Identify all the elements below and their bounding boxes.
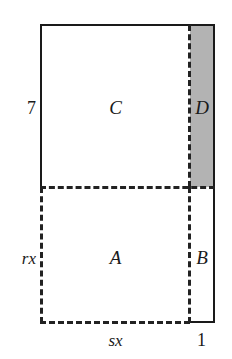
dimension-label-width-right: 1 — [188, 331, 215, 349]
dimension-label-width-left: sx — [41, 332, 190, 349]
region-label-c: C — [41, 98, 190, 117]
dimension-label-height-top: 7 — [8, 99, 36, 117]
region-label-a: A — [41, 248, 190, 267]
region-label-d: D — [190, 98, 214, 117]
region-label-b: B — [190, 248, 214, 267]
region-b-bottom-edge — [188, 321, 215, 323]
region-a-bottom-edge-dashed — [40, 321, 190, 324]
dimension-label-height-bottom: rx — [4, 250, 36, 267]
geometry-figure: C D A B 7 rx sx 1 — [0, 0, 232, 359]
